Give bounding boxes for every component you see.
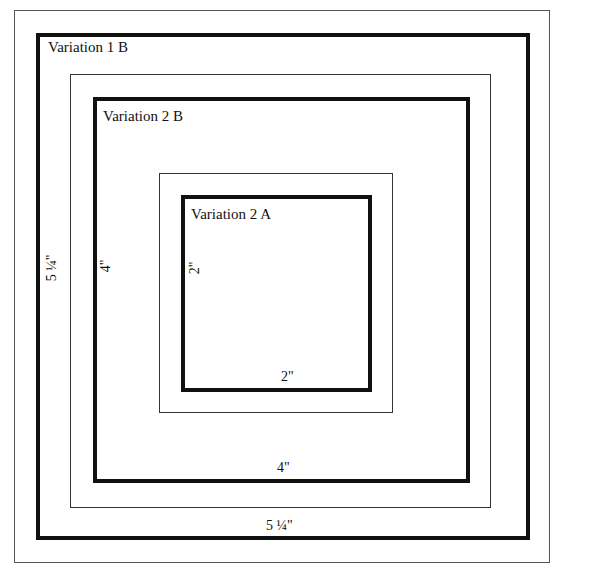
variation-2a-label: Variation 2 A (191, 207, 271, 222)
variation-2b-width-label: 4" (277, 461, 290, 475)
variation-1b-label: Variation 1 B (48, 40, 128, 55)
variation-2b-height-label: 4" (99, 256, 113, 276)
variation-2a-box (181, 195, 372, 392)
variation-2a-height-label: 2" (188, 258, 202, 278)
variation-1b-height-label: 5 ¼" (45, 252, 59, 284)
variation-2a-width-label: 2" (281, 370, 294, 384)
variation-1b-width-label: 5 ¼" (266, 519, 293, 533)
variation-2b-label: Variation 2 B (103, 109, 183, 124)
